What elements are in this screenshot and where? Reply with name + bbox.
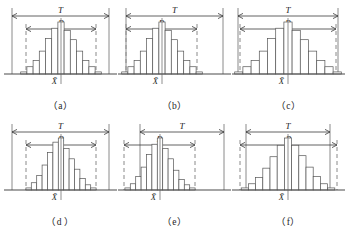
histogram-bar [140,51,146,74]
histogram-bar [300,40,308,74]
histogram-bar [190,67,196,74]
panel-f: TBX̄（f） [232,118,345,236]
histogram-plot-e: TBX̄ [118,118,231,218]
tolerance-label-e: T [179,121,185,131]
histogram-plot-b: TBX̄ [118,2,231,102]
histogram-bar [320,184,327,190]
histogram-bar [53,142,58,190]
histogram-bar [251,60,259,74]
histogram-bar [39,51,45,74]
histogram-bar [276,28,284,74]
histogram-bar [263,168,270,190]
histogram-bar [89,67,95,74]
histogram-bar [83,60,89,74]
panel-caption-d: （d ） [4,214,117,228]
histogram-bar [309,51,317,74]
histogram-plot-f: TBX̄ [232,118,345,218]
histogram-bar [248,184,255,190]
histogram-bar [178,51,184,74]
histogram-bar [153,28,159,74]
histogram-bar [306,167,313,190]
histogram-bar [152,144,157,190]
histogram-bar [243,67,251,74]
histogram-bar [69,159,74,190]
histogram-bar [268,39,276,74]
histogram-bar [64,30,70,74]
histogram-bar [270,157,277,190]
tolerance-label-f: T [285,121,291,131]
histogram-bar [299,156,306,190]
mean-label-d: X̄ [51,192,58,202]
panel-caption-b: （b） [118,98,231,112]
histogram-bar [27,67,33,74]
tolerance-label-b: T [172,5,178,15]
histogram-plot-d: TBX̄ [4,118,117,218]
tolerance-label-c: T [285,5,291,15]
mean-label-b: X̄ [152,76,159,86]
histogram-bar [147,39,153,74]
tolerance-dimension-f: T [246,121,330,135]
histogram-bar [313,176,320,190]
histogram-bar [168,159,173,190]
histogram-bar [174,170,179,190]
panel-a: TBX̄（a） [4,2,117,120]
tolerance-label-d: T [58,121,64,131]
histogram-bar [277,145,284,190]
histogram-bar [141,167,146,190]
histogram-bar [64,148,69,190]
mean-label-c: X̄ [278,76,285,86]
panel-caption-f: （f） [232,214,345,228]
panel-e: TBX̄（e） [118,118,231,236]
panel-caption-c: （c） [232,98,345,112]
histogram-bar [70,40,76,74]
histogram-bar [317,60,325,74]
histogram-bar [31,183,36,190]
histogram-bar [165,30,171,74]
histogram-bar [147,155,152,190]
histogram-bar [325,67,333,74]
histogram-bar [75,169,80,190]
histogram-bar [134,60,140,74]
tolerance-dimension-e: T [140,121,224,135]
panel-b: TBX̄（b） [118,2,231,120]
histogram-bar [33,60,39,74]
mean-label-a: X̄ [51,76,58,86]
histogram-bar [292,30,300,74]
histogram-bar [37,175,42,190]
histogram-bar [259,51,267,74]
histogram-bar [179,180,184,190]
histogram-bar [130,184,135,190]
histogram-bar [52,28,58,74]
histogram-bar [171,40,177,74]
panel-caption-a: （a） [4,98,117,112]
figure-container: TBX̄（a）TBX̄（b）TBX̄（c）TBX̄（d ）TBX̄（e）TBX̄… [0,0,350,236]
histogram-bar [184,185,189,190]
tolerance-dimension-d: T [12,121,109,135]
histogram-bar [256,178,263,190]
tolerance-dimension-c: T [238,5,338,19]
histogram-bar [42,165,47,190]
histogram-plot-a: TBX̄ [4,2,117,102]
histogram-bar [85,185,90,190]
histogram-bar [292,145,299,190]
histogram-plot-c: TBX̄ [232,2,345,102]
histogram-bar [128,67,134,74]
histogram-bar [77,51,83,74]
mean-label-f: X̄ [278,192,285,202]
tolerance-dimension-b: T [126,5,223,19]
histogram-bar [80,179,85,190]
panel-c: TBX̄（c） [232,2,345,120]
tolerance-label-a: T [58,5,64,15]
histogram-bar [184,60,190,74]
histogram-bar [136,176,141,190]
histogram-bar [163,148,168,190]
histogram-bar [46,39,52,74]
panel-d: TBX̄（d ） [4,118,117,236]
panel-caption-e: （e） [118,214,231,228]
mean-label-e: X̄ [150,192,157,202]
tolerance-dimension-a: T [12,5,109,19]
histogram-bar [48,153,53,190]
